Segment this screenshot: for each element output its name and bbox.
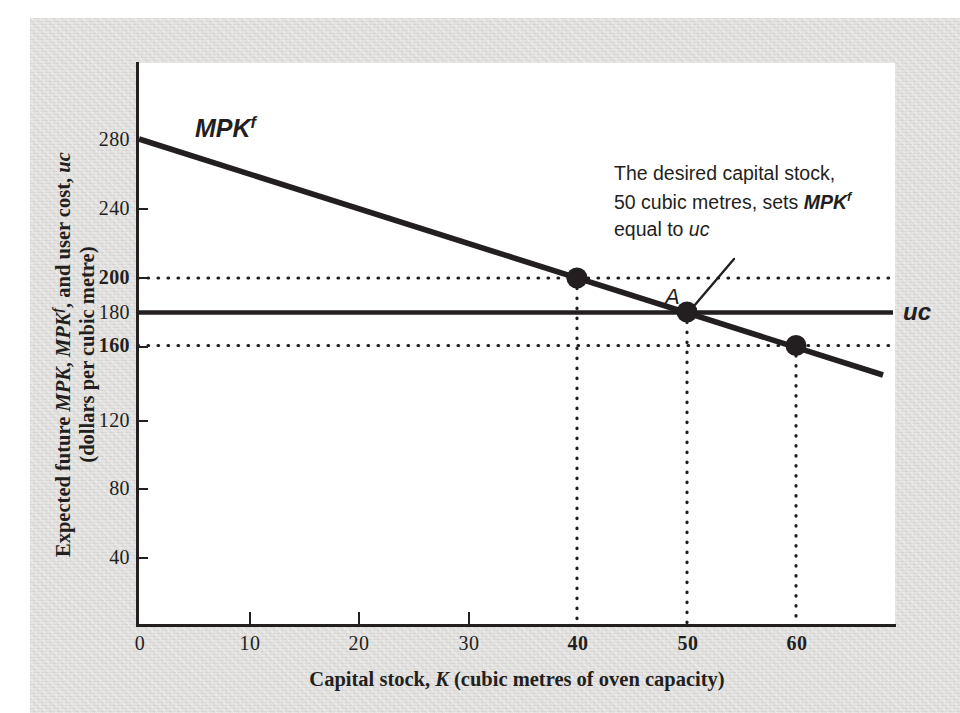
y-axis-title-mpkf-superscript: f bbox=[50, 308, 65, 313]
y-tick-mark-120 bbox=[137, 420, 148, 422]
x-tick-label-30: 30 bbox=[439, 632, 499, 655]
x-tick-mark-20 bbox=[358, 612, 360, 625]
x-tick-label-0: 0 bbox=[110, 632, 170, 655]
x-tick-label-40: 40 bbox=[548, 632, 608, 655]
x-axis-title-part-a: Capital stock, bbox=[309, 668, 435, 690]
annotation-line-3-text: equal to bbox=[614, 218, 689, 240]
figure-root: 280 240 200 180 160 120 80 40 0 10 20 30… bbox=[0, 0, 960, 713]
x-axis-title-part-c: (cubic metres of oven capacity) bbox=[449, 668, 725, 690]
y-tick-mark-40 bbox=[137, 557, 148, 559]
y-tick-mark-200 bbox=[137, 277, 148, 279]
x-axis-title-k: K bbox=[435, 668, 449, 690]
annotation-line-3: equal to uc bbox=[614, 216, 914, 244]
y-axis-title-mpkf: MPK bbox=[52, 312, 74, 356]
x-tick-label-60: 60 bbox=[767, 632, 827, 655]
annotation-line-1: The desired capital stock, bbox=[614, 160, 914, 188]
annotation-mpkf-superscript: f bbox=[847, 189, 851, 204]
y-tick-mark-160 bbox=[137, 346, 148, 348]
x-axis-title: Capital stock, K (cubic metres of oven c… bbox=[137, 668, 897, 691]
mpkf-curve-label: MPKf bbox=[195, 113, 256, 143]
x-tick-mark-30 bbox=[468, 612, 470, 625]
y-axis-title-line2: (dollars per cubic metre) bbox=[75, 75, 99, 635]
x-tick-label-20: 20 bbox=[329, 632, 389, 655]
y-axis-title-part-e: , and user cost, bbox=[52, 173, 74, 308]
y-tick-mark-240 bbox=[137, 208, 148, 210]
y-axis-title-mpk: MPK bbox=[52, 367, 74, 411]
annotation-line-2-text: 50 cubic metres, sets bbox=[614, 190, 804, 212]
x-tick-label-10: 10 bbox=[220, 632, 280, 655]
annotation-mpkf: MPK bbox=[804, 190, 847, 212]
annotation-desired-capital-stock: The desired capital stock, 50 cubic metr… bbox=[614, 160, 914, 244]
y-tick-mark-280 bbox=[137, 139, 148, 141]
y-tick-mark-80 bbox=[137, 488, 148, 490]
mpkf-curve-label-base: MPK bbox=[195, 114, 251, 142]
y-axis-line bbox=[136, 62, 139, 627]
plot-area bbox=[137, 63, 895, 625]
y-axis-title: Expected future MPK, MPKf, and user cost… bbox=[50, 75, 99, 635]
y-axis-title-part-a: Expected future bbox=[52, 412, 74, 557]
annotation-line-2: 50 cubic metres, sets MPKf bbox=[614, 188, 914, 216]
point-a-label: A bbox=[665, 284, 680, 310]
mpkf-curve-label-superscript: f bbox=[251, 113, 257, 131]
y-axis-title-uc: uc bbox=[52, 152, 74, 173]
x-tick-mark-10 bbox=[249, 612, 251, 625]
y-axis-title-part-c: , bbox=[52, 357, 74, 367]
x-tick-label-50: 50 bbox=[658, 632, 718, 655]
uc-curve-label: uc bbox=[903, 298, 931, 326]
annotation-uc: uc bbox=[689, 218, 710, 240]
y-tick-mark-180 bbox=[137, 312, 148, 314]
